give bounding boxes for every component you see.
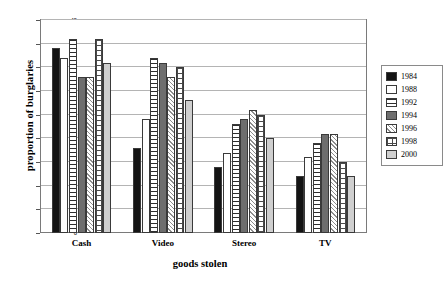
- bar-stereo-1992: [232, 124, 240, 233]
- bar-tv-1992: [313, 143, 321, 233]
- legend-item-1996[interactable]: 1996: [386, 122, 439, 135]
- legend-item-2000[interactable]: 2000: [386, 148, 439, 161]
- bar-group: [285, 20, 366, 233]
- bar-cash-1996: [86, 77, 94, 233]
- bar-video-2000: [185, 100, 193, 233]
- legend-item-1998[interactable]: 1998: [386, 135, 439, 148]
- y-axis-tick-mark: [36, 233, 40, 234]
- legend-item-1994[interactable]: 1994: [386, 109, 439, 122]
- bar-stereo-1996: [249, 110, 257, 233]
- bar-video-1994: [159, 63, 167, 233]
- bar-stereo-1984: [214, 167, 222, 233]
- x-axis-label-tv: TV: [280, 238, 370, 248]
- legend-swatch-icon-1988: [386, 85, 397, 94]
- bar-tv-1998: [339, 162, 347, 233]
- legend-swatch-icon-1994: [386, 111, 397, 120]
- bar-tv-1994: [321, 134, 329, 233]
- bar-video-1992: [150, 58, 158, 233]
- bar-group: [122, 20, 203, 233]
- bar-video-1984: [133, 148, 141, 233]
- legend-swatch-icon-1998: [386, 137, 397, 146]
- legend-swatch-icon-2000: [386, 150, 397, 159]
- legend-label: 1996: [401, 124, 417, 133]
- y-axis-title: proportion of burglaries: [24, 21, 35, 211]
- bar-video-1998: [176, 67, 184, 233]
- bar-tv-1988: [304, 157, 312, 233]
- bar-stereo-1998: [257, 115, 265, 233]
- bar-stereo-1988: [223, 153, 231, 233]
- bar-cash-1992: [69, 39, 77, 233]
- legend-label: 1998: [401, 137, 417, 146]
- legend-label: 1992: [401, 98, 417, 107]
- bar-group: [41, 20, 122, 233]
- bar-cash-1984: [52, 48, 60, 233]
- legend-swatch-icon-1984: [386, 72, 397, 81]
- legend-label: 1988: [401, 85, 417, 94]
- legend-swatch-icon-1996: [386, 124, 397, 133]
- bar-cash-1994: [78, 77, 86, 233]
- bar-video-1996: [167, 77, 175, 233]
- bar-cash-1988: [60, 58, 68, 233]
- bar-cash-2000: [103, 63, 111, 233]
- x-axis-label-stereo: Stereo: [199, 238, 289, 248]
- bar-cash-1998: [95, 39, 103, 233]
- bar-tv-2000: [347, 176, 355, 233]
- bar-tv-1984: [296, 176, 304, 233]
- bar-group: [204, 20, 285, 233]
- legend-item-1984[interactable]: 1984: [386, 70, 439, 83]
- legend-label: 2000: [401, 150, 417, 159]
- bar-chart: proportion of burglaries 454035302520151…: [0, 0, 448, 281]
- bar-series-container: [41, 20, 366, 233]
- legend-label: 1994: [401, 111, 417, 120]
- legend-label: 1984: [401, 72, 417, 81]
- legend-item-1992[interactable]: 1992: [386, 96, 439, 109]
- x-axis-label-video: Video: [118, 238, 208, 248]
- x-axis-label-cash: Cash: [37, 238, 127, 248]
- bar-stereo-2000: [266, 138, 274, 233]
- legend: 1984198819921994199619982000: [381, 65, 443, 166]
- x-axis-title: goods stolen: [40, 258, 360, 269]
- bar-stereo-1994: [240, 119, 248, 233]
- legend-swatch-icon-1992: [386, 98, 397, 107]
- bar-video-1988: [142, 119, 150, 233]
- bar-tv-1996: [330, 134, 338, 233]
- legend-item-1988[interactable]: 1988: [386, 83, 439, 96]
